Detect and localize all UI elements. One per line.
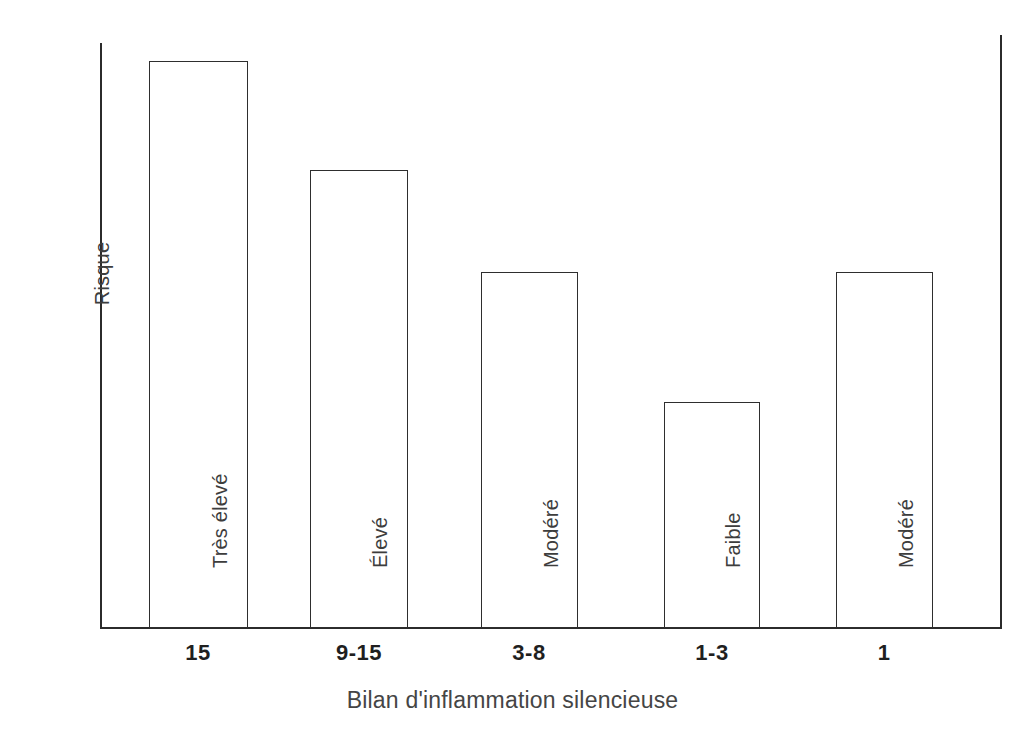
bar-3-8 xyxy=(481,272,578,628)
x-tick-label-1-3: 1-3 xyxy=(652,640,772,666)
bar-label-3-8: Modéré xyxy=(540,499,563,568)
bar-label-9-15: Élevé xyxy=(369,517,392,568)
x-axis-title: Bilan d'inflammation silencieuse xyxy=(0,687,1025,714)
x-tick-label-9-15: 9-15 xyxy=(299,640,419,666)
bar-9-15 xyxy=(310,170,408,628)
x-tick-label-15: 15 xyxy=(138,640,258,666)
bar-1-3 xyxy=(664,402,760,628)
plot-area: Très élevéÉlevéModéréFaibleModéré159-153… xyxy=(0,0,1025,739)
x-tick-label-1: 1 xyxy=(824,640,944,666)
x-tick-label-3-8: 3-8 xyxy=(469,640,589,666)
bar-chart-figure: Risque Très élevéÉlevéModéréFaibleModéré… xyxy=(0,0,1025,739)
bar-label-15: Très élevé xyxy=(209,473,232,568)
bar-label-1: Modéré xyxy=(895,499,918,568)
bar-15 xyxy=(149,61,248,628)
bar-1 xyxy=(836,272,933,628)
bar-label-1-3: Faible xyxy=(722,512,745,568)
